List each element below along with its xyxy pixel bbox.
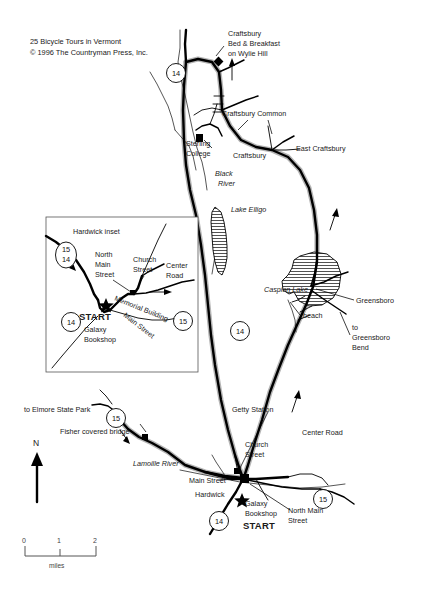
label-galaxy-bookshop-line2: Bookshop — [245, 509, 277, 518]
road-east-craftsbury-north — [268, 126, 272, 150]
label-hardwick: Hardwick — [195, 490, 225, 499]
label-greensboro: Greensboro — [356, 296, 394, 305]
label-to-greensboro-bend-line3: Bend — [352, 343, 369, 352]
label-black-river-line2: River — [218, 179, 235, 188]
route-shield-bottom-right-15[interactable]: 15 — [314, 490, 333, 509]
marker-fisher-covered-bridge — [142, 434, 148, 440]
marker-getty-station — [234, 468, 240, 474]
credit-line-1: 25 Bicycle Tours in Vermont — [30, 37, 121, 46]
label-black-river-line1: Black — [215, 169, 233, 178]
hardwick-inset-title: Hardwick inset — [73, 227, 120, 236]
label-north-main-street-line2: Street — [288, 516, 307, 525]
map-canvas: 25 Bicycle Tours in Vermont © 1996 The C… — [0, 0, 421, 589]
hardwick-inset: Hardwick inset North Main Street Church — [46, 217, 198, 372]
inset-label-north-main-line2: Main — [95, 260, 111, 269]
credit-line-2: © 1996 The Countryman Press, Inc. — [30, 48, 148, 57]
inset-label-start: START — [79, 311, 111, 322]
scale-unit-label: miles — [49, 562, 65, 569]
label-to-elmore-state-park: to Elmore State Park — [24, 405, 91, 414]
road-common-east-spur — [222, 96, 258, 110]
scale-tick-2: 2 — [93, 537, 97, 544]
scale-bar-line — [25, 546, 96, 556]
road-hardwick-east-loop — [288, 474, 328, 485]
inset-label-north-main-line3: Street — [95, 270, 114, 279]
route-shield-bottom-14-label: 14 — [215, 517, 223, 526]
inset-shield-14-label: 14 — [62, 255, 70, 264]
compass-rose: N — [31, 438, 43, 502]
label-start-hardwick: START — [243, 520, 275, 531]
route-shield-mid-14-label: 14 — [236, 327, 244, 336]
label-lamoille-river: Lamoille River — [133, 459, 179, 468]
bicycle-tour-map: 25 Bicycle Tours in Vermont © 1996 The C… — [0, 0, 421, 589]
inset-label-north-main-line1: North — [95, 250, 113, 259]
road-elmore-spur — [100, 390, 112, 404]
road-common-west-spur — [194, 108, 222, 115]
marker-hardwick-center — [240, 474, 249, 483]
label-church-street-line2: Street — [245, 450, 264, 459]
label-to-greensboro-bend-line2: Greensboro — [352, 333, 390, 342]
label-to-greensboro-bend-line1: to — [352, 323, 358, 332]
inset-label-galaxy-line1: Galaxy — [84, 325, 107, 334]
label-craftsbury-common: Craftsbury Common — [222, 109, 286, 118]
road-east-craftsbury-spur — [272, 136, 294, 150]
inset-label-center-road-line2: Road — [166, 271, 183, 280]
label-caspian-lake: Caspian Lake — [264, 285, 308, 294]
inset-shield-15-label: 15 — [62, 245, 70, 254]
compass-arrow-head — [31, 452, 43, 466]
route-shield-top-14-label: 14 — [172, 69, 180, 78]
route-shield-top-14[interactable]: 14 — [167, 64, 186, 83]
compass-north-label: N — [33, 438, 39, 448]
label-sterling-college-line2: College — [186, 149, 210, 158]
inset-shield-right-15-label: 15 — [179, 317, 187, 326]
label-craftsbury: Craftsbury — [233, 151, 267, 160]
inset-label-galaxy-line2: Bookshop — [84, 335, 116, 344]
label-church-street-line1: Church — [245, 440, 268, 449]
route-shield-bottom-14[interactable]: 14 — [210, 512, 229, 531]
scale-tick-1: 1 — [57, 537, 61, 544]
inset-marker-memorial-building — [130, 290, 135, 295]
route-shield-mid-14[interactable]: 14 — [231, 322, 250, 341]
route-top-connector — [186, 59, 222, 110]
inset-shield-15-14[interactable]: 15 14 — [56, 242, 77, 268]
label-fisher-covered-bridge: Fisher covered bridge — [60, 427, 130, 436]
label-craftsbury-bnb-line3: on Wylie Hill — [228, 49, 268, 58]
label-main-street: Main Street — [189, 476, 226, 485]
inset-label-church-street-line1: Church — [133, 255, 156, 264]
label-center-road-east: Center Road — [302, 428, 343, 437]
label-beach: beach — [303, 311, 323, 320]
label-sterling-college-line1: Sterling — [186, 139, 210, 148]
road-craftsbury-spur — [210, 104, 217, 124]
inset-label-center-road-line1: Center — [166, 261, 188, 270]
label-galaxy-bookshop-line1: Galaxy — [245, 499, 268, 508]
label-east-craftsbury: East Craftsbury — [296, 144, 346, 153]
inset-label-church-street-line2: Street — [133, 265, 152, 274]
label-craftsbury-bnb-line1: Craftsbury — [228, 29, 262, 38]
route-shield-elmore-15[interactable]: 15 — [107, 409, 126, 428]
scale-bar: 0 1 2 miles — [22, 537, 97, 569]
route-shield-bottom-right-15-label: 15 — [319, 495, 327, 504]
route-shield-elmore-15-label: 15 — [112, 414, 120, 423]
label-craftsbury-bnb-line2: Bed & Breakfast — [228, 39, 280, 48]
inset-shield-bottom-left-14[interactable]: 14 — [62, 313, 81, 332]
label-lake-elligo: Lake Elligo — [231, 205, 266, 214]
inset-shield-bottom-left-14-label: 14 — [67, 318, 75, 327]
scale-tick-0: 0 — [22, 537, 26, 544]
caspian-lake-polygon — [282, 252, 341, 306]
inset-shield-right-15[interactable]: 15 — [174, 312, 193, 331]
